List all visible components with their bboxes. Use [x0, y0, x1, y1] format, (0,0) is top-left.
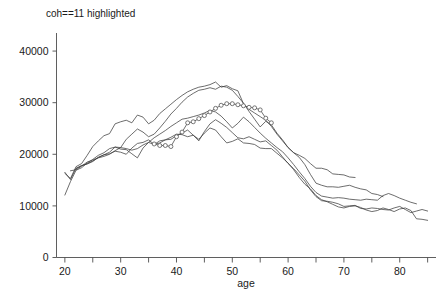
data-point-marker — [253, 106, 257, 110]
data-point-marker — [202, 114, 206, 118]
data-point-marker — [225, 102, 229, 106]
y-axis-ticks: 010000200003000040000 — [19, 45, 56, 263]
data-point-marker — [208, 110, 212, 114]
series-line — [65, 86, 383, 196]
data-point-marker — [258, 108, 262, 112]
data-point-marker — [236, 103, 240, 107]
x-axis-ticks: 20304050607080 — [59, 258, 428, 277]
x-tick-label: 30 — [115, 265, 127, 277]
series-line — [76, 128, 428, 220]
y-tick-label: 40000 — [19, 45, 48, 57]
data-point-marker — [174, 135, 178, 139]
data-point-marker — [241, 104, 245, 108]
x-tick-label: 20 — [59, 265, 71, 277]
data-point-marker — [152, 142, 156, 146]
data-point-marker — [264, 116, 268, 120]
x-tick-label: 80 — [394, 265, 406, 277]
age-earnings-line-chart: coh==11 highlighted 01000020000300004000… — [0, 0, 445, 293]
highlighted-series-line — [154, 104, 271, 147]
data-point-marker — [247, 105, 251, 109]
data-point-marker — [219, 103, 223, 107]
data-point-marker — [214, 106, 218, 110]
data-point-marker — [158, 144, 162, 148]
y-tick-label: 30000 — [19, 96, 48, 108]
series-line — [65, 110, 417, 203]
chart-title-group: coh==11 highlighted — [46, 8, 135, 19]
x-axis-title: age — [237, 277, 255, 289]
data-point-marker — [230, 102, 234, 106]
x-tick-label: 70 — [338, 265, 350, 277]
chart-title: coh==11 highlighted — [46, 8, 135, 19]
x-tick-label: 60 — [282, 265, 294, 277]
series-lines — [65, 82, 428, 220]
data-point-marker — [186, 121, 190, 125]
data-point-marker — [180, 130, 184, 134]
data-point-marker — [163, 144, 167, 148]
x-tick-label: 50 — [226, 265, 238, 277]
data-point-marker — [191, 120, 195, 124]
y-tick-label: 10000 — [19, 200, 48, 212]
data-point-marker — [169, 145, 173, 149]
chart-container: coh==11 highlighted 01000020000300004000… — [0, 0, 445, 293]
data-point-marker — [269, 121, 273, 125]
highlight-markers — [152, 102, 273, 149]
x-tick-label: 40 — [171, 265, 183, 277]
y-tick-label: 20000 — [19, 148, 48, 160]
series-line — [70, 120, 427, 213]
series-line — [65, 82, 355, 179]
data-point-marker — [197, 117, 201, 121]
y-tick-label: 0 — [43, 251, 49, 263]
